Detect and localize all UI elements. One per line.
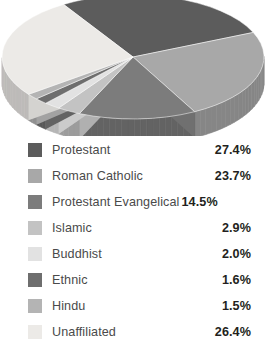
legend-row: Buddhist2.0% <box>0 241 265 267</box>
legend-swatch <box>28 273 42 287</box>
legend-row: Islamic2.9% <box>0 215 265 241</box>
legend-label: Buddhist <box>52 247 102 261</box>
pie-chart-svg: Protestant 27.4%Roman Catholic 23.7%Prot… <box>0 0 265 136</box>
legend-row: Roman Catholic23.7% <box>0 163 265 189</box>
legend-label: Ethnic <box>52 273 88 287</box>
legend-swatch <box>28 247 42 261</box>
pie-slice-wall <box>246 86 249 115</box>
legend-swatch <box>28 169 42 183</box>
legend-label: Roman Catholic <box>52 169 143 183</box>
pie-slice-wall <box>252 80 255 109</box>
pie-slice-wall <box>128 119 134 136</box>
legend-row: Hindu1.5% <box>0 293 265 319</box>
pie-slice-wall <box>254 77 256 106</box>
pie-chart-graphic: Protestant 27.4%Roman Catholic 23.7%Prot… <box>0 0 265 136</box>
pie-slice-wall <box>216 103 221 131</box>
legend-percentage: 1.5% <box>222 299 251 313</box>
pie-slice-wall <box>165 116 171 136</box>
pie-slice-wall <box>8 76 10 105</box>
pie-slice-wall <box>147 118 153 136</box>
pie-slice-wall <box>235 94 239 122</box>
pie-slice-wall <box>153 118 159 136</box>
pie-slice-wall <box>242 89 245 118</box>
legend-percentage: 27.4% <box>215 143 251 157</box>
legend-percentage: 14.5% <box>182 195 218 209</box>
legend-label: Unaffiliated <box>52 325 116 339</box>
pie-slice-wall <box>116 118 122 136</box>
pie-slice-wall <box>200 109 205 136</box>
pie-slice-wall <box>195 110 201 136</box>
chart-legend: Protestant27.4%Roman Catholic23.7%Protes… <box>0 137 265 349</box>
legend-percentage: 23.7% <box>215 169 251 183</box>
legend-row: Ethnic1.6% <box>0 267 265 293</box>
pie-slice-wall <box>12 81 15 110</box>
pie-slice-wall <box>249 83 252 112</box>
legend-percentage: 2.9% <box>222 221 251 235</box>
pie-slice-wall <box>21 89 24 118</box>
pie-slice-wall <box>230 96 234 124</box>
pie-slice-wall <box>109 118 115 136</box>
pie-slice-wall <box>206 107 211 135</box>
pie-slice-wall <box>103 117 109 136</box>
legend-percentage: 2.0% <box>222 247 251 261</box>
pie-slice-wall <box>134 119 140 136</box>
legend-percentage: 26.4% <box>215 325 251 339</box>
legend-swatch <box>28 325 42 339</box>
pie-slice-wall <box>10 78 12 107</box>
legend-percentage: 1.6% <box>222 273 251 287</box>
legend-swatch <box>28 143 42 157</box>
legend-row: Protestant27.4% <box>0 137 265 163</box>
legend-swatch <box>28 299 42 313</box>
pie-slice-wall <box>18 87 21 116</box>
legend-label: Hindu <box>52 299 85 313</box>
pie-slice-wall <box>141 119 147 136</box>
pie-slice-wall <box>211 105 216 133</box>
legend-label: Protestant Evangelical <box>52 195 180 209</box>
legend-row: Unaffiliated26.4% <box>0 319 265 345</box>
legend-row: Protestant Evangelical14.5% <box>0 189 265 215</box>
pie-slice-wall <box>238 91 242 120</box>
legend-swatch <box>28 221 42 235</box>
pie-slice-wall <box>15 84 18 113</box>
pie-slice-wall <box>122 119 128 136</box>
pie-slice-wall <box>221 101 226 129</box>
legend-label: Islamic <box>52 221 92 235</box>
pie-slice-wall <box>25 92 29 120</box>
legend-swatch <box>28 195 42 209</box>
pie-chart-figure: Protestant 27.4%Roman Catholic 23.7%Prot… <box>0 0 265 349</box>
pie-slice-wall <box>226 99 230 127</box>
legend-label: Protestant <box>52 143 110 157</box>
pie-slice-wall <box>159 117 165 136</box>
